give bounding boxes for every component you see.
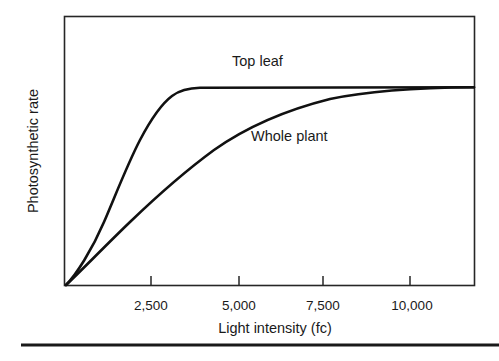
x-tick-label-2500: 2,500	[134, 298, 168, 313]
curve-top-leaf	[66, 87, 474, 285]
y-axis-title: Photosynthetic rate	[25, 89, 41, 213]
x-axis-ticks	[151, 276, 410, 286]
curve-whole-plant	[66, 87, 474, 285]
x-tick-label-5000: 5,000	[222, 298, 256, 313]
series-label-top-leaf: Top leaf	[232, 53, 284, 69]
photosynthesis-light-response-chart: 2,500 5,000 7,500 10,000 Light intensity…	[0, 0, 499, 361]
figure-root: 2,500 5,000 7,500 10,000 Light intensity…	[0, 0, 499, 361]
x-axis-tick-labels: 2,500 5,000 7,500 10,000	[134, 298, 433, 313]
x-axis-title: Light intensity (fc)	[218, 320, 332, 336]
x-tick-label-10000: 10,000	[391, 298, 432, 313]
series-label-whole-plant: Whole plant	[251, 128, 328, 144]
x-tick-label-7500: 7,500	[306, 298, 340, 313]
